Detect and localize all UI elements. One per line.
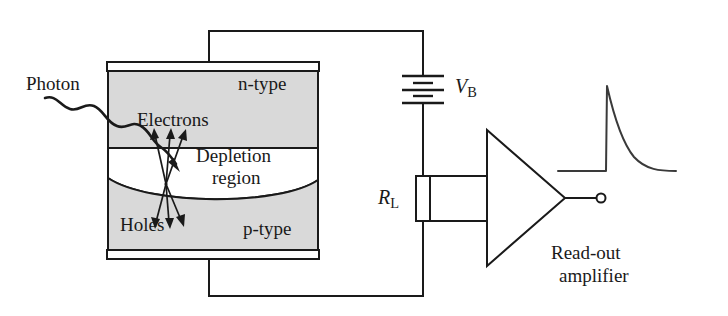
load-resistor: [416, 176, 430, 221]
photodiode-circuit-figure: Photon n-type Electrons Depletion region…: [0, 0, 728, 316]
photon-label: Photon: [26, 74, 80, 94]
load-resistor-subscript: L: [390, 195, 399, 211]
depletion-region-label-line1: Depletion: [196, 146, 271, 166]
amplifier-label-line1: Read-out: [551, 243, 621, 263]
p-type-label: p-type: [243, 219, 292, 239]
bias-voltage-label: VB: [455, 76, 477, 100]
top-contact: [107, 62, 319, 71]
bias-voltage-subscript: B: [467, 84, 477, 100]
depletion-region-label-line2: region: [212, 168, 261, 188]
output-pulse-waveform: [558, 86, 676, 171]
load-resistor-symbol: R: [378, 186, 390, 208]
n-type-label: n-type: [238, 74, 287, 94]
amplifier-output-terminal: [597, 194, 606, 203]
electrons-label: Electrons: [137, 110, 209, 130]
load-resistor-label: RL: [378, 187, 399, 211]
bottom-contact: [107, 250, 319, 259]
holes-label: Holes: [120, 215, 164, 235]
amplifier-label-line2: amplifier: [559, 266, 629, 286]
bias-voltage-symbol: V: [455, 75, 467, 97]
